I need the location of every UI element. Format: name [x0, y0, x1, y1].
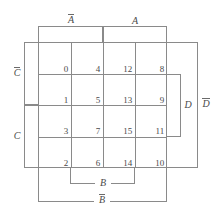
kmap-cell[interactable]: 8 — [135, 43, 167, 75]
label-a-not: A — [63, 14, 79, 25]
bracket-c-not-top-tick — [24, 42, 38, 43]
label-a: A — [127, 16, 143, 26]
bracket-a-left-tick — [103, 26, 104, 42]
bracket-a-not-top — [38, 26, 103, 27]
label-a-not-text: A — [68, 14, 74, 25]
bracket-c-left — [24, 105, 25, 168]
cell-minterm: 7 — [96, 127, 101, 136]
cell-minterm: 1 — [64, 96, 69, 105]
bracket-b-not-right-tick — [166, 168, 167, 202]
bracket-a-top — [103, 26, 167, 27]
label-d-not: D — [198, 98, 214, 109]
label-d: D — [181, 100, 195, 110]
kmap-cell[interactable]: 12 — [103, 43, 135, 75]
kmap-cell[interactable]: 15 — [103, 105, 135, 137]
bracket-b-not-left-tick — [38, 168, 39, 202]
label-c-text: C — [14, 130, 21, 141]
label-b-text: B — [100, 177, 106, 188]
bracket-c-top-tick — [24, 105, 38, 106]
cell-minterm: 10 — [155, 159, 164, 168]
cell-minterm: 13 — [123, 96, 132, 105]
label-c-not-text: C — [14, 67, 21, 78]
cell-minterm: 12 — [123, 65, 132, 74]
kmap-cell[interactable]: 10 — [135, 137, 167, 169]
kmap-cell[interactable]: 2 — [39, 137, 71, 169]
kmap-cell[interactable]: 1 — [39, 74, 71, 106]
cell-minterm: 14 — [123, 159, 132, 168]
bracket-b-right-tick — [134, 168, 135, 184]
label-d-not-text: D — [202, 98, 209, 109]
cell-minterm: 8 — [160, 65, 165, 74]
kmap-cell[interactable]: 9 — [135, 74, 167, 106]
kmap-grid: 0 4 12 8 1 5 13 9 3 7 15 11 2 6 — [38, 42, 167, 168]
cell-minterm: 2 — [64, 159, 69, 168]
bracket-b-left-tick — [70, 168, 71, 184]
cell-minterm: 3 — [64, 127, 69, 136]
label-a-text: A — [132, 15, 138, 26]
bracket-c-bottom-tick — [24, 167, 38, 168]
bracket-a-not-left-tick — [38, 26, 39, 42]
karnaugh-map-figure: A A C C D D B B — [0, 0, 222, 220]
kmap-cell[interactable]: 3 — [39, 105, 71, 137]
bracket-c-not-left — [24, 42, 25, 105]
kmap-cell[interactable]: 6 — [71, 137, 103, 169]
label-c: C — [10, 131, 24, 141]
bracket-d-top-tick — [167, 74, 181, 75]
kmap-cell[interactable]: 0 — [39, 43, 71, 75]
label-b-not-text: B — [99, 194, 105, 205]
cell-minterm: 15 — [123, 127, 132, 136]
kmap-cell[interactable]: 11 — [135, 105, 167, 137]
bracket-d-not-bottom-tick — [167, 167, 198, 168]
kmap-cell[interactable]: 14 — [103, 137, 135, 169]
cell-minterm: 11 — [156, 127, 165, 136]
label-b-not: B — [94, 194, 110, 205]
kmap-cell[interactable]: 13 — [103, 74, 135, 106]
kmap-cell[interactable]: 5 — [71, 74, 103, 106]
label-b: B — [95, 178, 111, 188]
label-d-text: D — [184, 99, 191, 110]
cell-minterm: 6 — [96, 159, 101, 168]
bracket-d-not-top-tick — [167, 42, 198, 43]
bracket-d-bottom-tick — [167, 136, 181, 137]
cell-minterm: 9 — [160, 96, 165, 105]
kmap-cell[interactable]: 7 — [71, 105, 103, 137]
cell-minterm: 5 — [96, 96, 101, 105]
bracket-a-right-tick — [166, 26, 167, 42]
cell-minterm: 4 — [96, 65, 101, 74]
kmap-cell[interactable]: 4 — [71, 43, 103, 75]
cell-minterm: 0 — [64, 65, 69, 74]
label-c-not: C — [10, 67, 24, 78]
